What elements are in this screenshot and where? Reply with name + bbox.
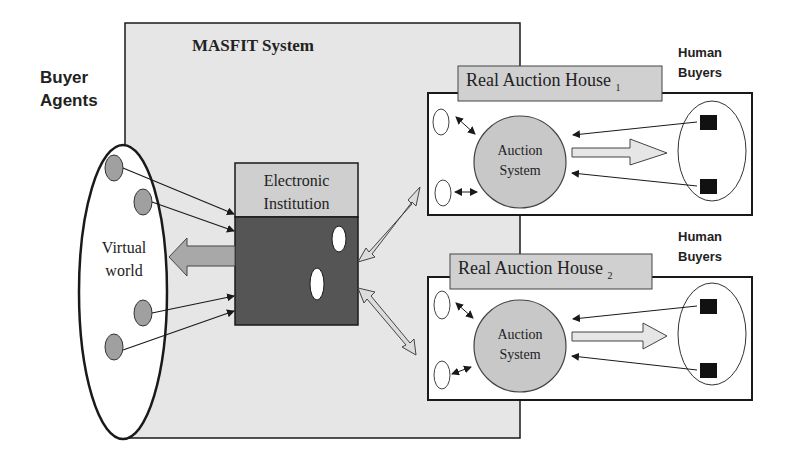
buyer-agents-line2: Agents	[40, 89, 98, 112]
ei-line2: Institution	[235, 192, 358, 215]
ei-line1: Electronic	[235, 169, 358, 192]
human-buyers-2-label: Human Buyers	[678, 227, 722, 267]
virtual-world-line1: Virtual	[92, 236, 156, 259]
buyer-agent-icon	[105, 155, 123, 181]
buyer-agents-label: Buyer Agents	[40, 66, 98, 112]
auction-house-1-name: Real Auction House	[466, 70, 611, 90]
masfit-title: MASFIT System	[192, 36, 314, 56]
human-buyers-2-line2: Buyers	[678, 247, 722, 267]
auction-system-2-line1: Auction	[482, 325, 558, 345]
auction-house-2-subscript: 2	[607, 270, 612, 281]
human-buyers-1-line1: Human	[678, 43, 722, 63]
scene-icon	[310, 268, 324, 300]
buyer-agent-icon	[105, 334, 123, 360]
buyer-agents-line1: Buyer	[40, 66, 98, 89]
auction-system-2-line2: System	[482, 345, 558, 365]
auction-house-1-title: Real Auction House 1	[466, 70, 620, 93]
diagram-canvas	[0, 0, 789, 458]
auction-house-2-title: Real Auction House 2	[458, 258, 612, 281]
auction-system-1-label: Auction System	[482, 141, 558, 181]
buyer-agent-icon	[134, 300, 152, 326]
auction-house-1-subscript: 1	[615, 82, 620, 93]
virtual-world	[79, 145, 167, 439]
electronic-institution-label: Electronic Institution	[235, 169, 358, 215]
human-buyers-1-line2: Buyers	[678, 63, 722, 83]
auction-system-1-line2: System	[482, 161, 558, 181]
virtual-world-line2: world	[92, 259, 156, 282]
human-buyers-2-line1: Human	[678, 227, 722, 247]
human-buyers-1-label: Human Buyers	[678, 43, 722, 83]
auction-house-2-name: Real Auction House	[458, 258, 603, 278]
scene-icon	[332, 226, 346, 252]
auction-system-1-line1: Auction	[482, 141, 558, 161]
buyer-agent-icon	[134, 189, 152, 215]
auction-system-2-label: Auction System	[482, 325, 558, 365]
virtual-world-label: Virtual world	[92, 236, 156, 282]
